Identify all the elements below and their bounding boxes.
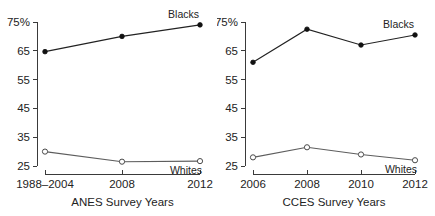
x-tick-label: 2006: [240, 178, 266, 190]
data-point-whites: [412, 158, 417, 163]
data-point-blacks: [413, 33, 418, 38]
x-tick-label: 2008: [109, 178, 135, 190]
series-label-whites: Whites: [385, 163, 417, 175]
data-point-blacks: [359, 43, 364, 48]
y-tick-label: 35: [17, 131, 30, 143]
y-tick-label: 75%: [217, 16, 238, 28]
x-tick-label: 1988–2004: [16, 178, 74, 190]
data-point-blacks: [251, 60, 256, 65]
y-tick-label: 25: [17, 160, 30, 172]
data-point-blacks: [43, 49, 48, 54]
data-point-whites: [358, 152, 363, 157]
panel-anes: 75%65554535251988–200420082012ANES Surve…: [0, 0, 217, 216]
data-point-whites: [42, 149, 47, 154]
series-line-whites: [253, 147, 415, 160]
y-tick-label: 25: [225, 160, 238, 172]
x-axis-title: CCES Survey Years: [283, 196, 386, 208]
panel-cces: 75%65554535252006200820102012CCES Survey…: [217, 0, 434, 216]
series-label-blacks: Blacks: [383, 18, 414, 30]
x-axis-title: ANES Survey Years: [71, 196, 174, 208]
x-tick-label: 2012: [402, 178, 428, 190]
y-tick-label: 75%: [7, 16, 30, 28]
anes-plot-area: 75%65554535251988–200420082012ANES Surve…: [0, 0, 217, 216]
data-point-whites: [119, 159, 124, 164]
data-point-blacks: [198, 23, 203, 28]
y-tick-label: 55: [225, 74, 238, 86]
data-point-whites: [304, 145, 309, 150]
y-tick-label: 65: [17, 45, 30, 57]
series-label-whites: Whites: [170, 164, 202, 176]
series-label-blacks: Blacks: [168, 8, 199, 20]
y-tick-label: 45: [225, 102, 238, 114]
x-tick-label: 2008: [294, 178, 320, 190]
x-tick-label: 2010: [348, 178, 374, 190]
y-tick-label: 35: [225, 131, 238, 143]
data-point-blacks: [120, 34, 125, 39]
cces-plot-area: 75%65554535252006200820102012CCES Survey…: [217, 0, 435, 216]
x-tick-label: 2012: [187, 178, 213, 190]
series-line-blacks: [253, 29, 415, 62]
y-tick-label: 45: [17, 102, 30, 114]
data-point-whites: [197, 159, 202, 164]
data-point-whites: [250, 155, 255, 160]
y-tick-label: 65: [225, 45, 238, 57]
data-point-blacks: [305, 27, 310, 32]
y-tick-label: 55: [17, 74, 30, 86]
chart-figure: 75%65554535251988–200420082012ANES Surve…: [0, 0, 435, 216]
